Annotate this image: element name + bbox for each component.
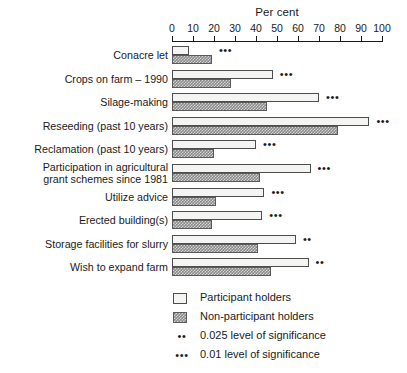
significance-marker: •••: [271, 187, 284, 198]
significance-marker: •••: [326, 92, 339, 103]
bar-participant-holders: [172, 140, 256, 149]
significance-marker: •••: [263, 139, 276, 150]
bar-row-label: Storage facilities for slurry: [3, 239, 168, 251]
bar-row: Conacre let•••: [0, 46, 407, 70]
bar-row: Utilize advice•••: [0, 188, 407, 212]
bar-participant-holders: [172, 117, 369, 126]
bar-non-participant-holders: [172, 126, 338, 135]
bar-row: Erected building(s)•••: [0, 211, 407, 235]
bar-row-label: Crops on farm – 1990: [3, 74, 168, 86]
legend-significance-marker-icon: ••: [173, 330, 191, 342]
significance-marker: •••: [376, 116, 389, 127]
bar-non-participant-holders: [172, 102, 267, 111]
bar-row: Reseeding (past 10 years)•••: [0, 117, 407, 141]
bar-participant-holders: [172, 70, 273, 79]
legend-item-label: 0.01 level of significance: [200, 348, 320, 360]
legend-item-label: Participant holders: [200, 291, 291, 303]
bar-row-label: Wish to expand farm: [3, 262, 168, 274]
significance-marker: ••: [316, 257, 325, 268]
legend-item: Non-participant holders: [173, 309, 403, 328]
bar-row-label: Erected building(s): [3, 215, 168, 227]
legend-item: Participant holders: [173, 290, 403, 309]
bar-row-label: Utilize advice: [3, 192, 168, 204]
legend-significance-marker-icon: •••: [173, 349, 191, 361]
bar-row-label: Conacre let: [3, 50, 168, 62]
bar-participant-holders: [172, 188, 264, 197]
bar-participant-holders: [172, 93, 319, 102]
bar-row-label: Silage-making: [3, 97, 168, 109]
bar-participant-holders: [172, 46, 189, 55]
significance-marker: •••: [318, 163, 331, 174]
bar-row-label: Participation in agricultural grant sche…: [3, 162, 168, 185]
legend-item: ••0.025 level of significance: [173, 328, 403, 347]
significance-marker: •••: [269, 210, 282, 221]
chart-legend: Participant holdersNon-participant holde…: [173, 290, 403, 366]
significance-marker: •••: [219, 45, 232, 56]
legend-swatch-non-participant-icon: [173, 312, 187, 323]
bar-non-participant-holders: [172, 149, 214, 158]
significance-marker: ••: [303, 234, 312, 245]
bar-non-participant-holders: [172, 220, 212, 229]
bar-row: Silage-making•••: [0, 93, 407, 117]
bar-participant-holders: [172, 235, 296, 244]
bar-row: Participation in agricultural grant sche…: [0, 164, 407, 188]
bar-non-participant-holders: [172, 79, 231, 88]
bar-chart: Per cent 0102030405060708090100 Conacre …: [0, 0, 407, 373]
bar-participant-holders: [172, 258, 309, 267]
bar-row: Storage facilities for slurry••: [0, 235, 407, 259]
bar-non-participant-holders: [172, 197, 216, 206]
bar-participant-holders: [172, 164, 311, 173]
bar-non-participant-holders: [172, 173, 260, 182]
legend-item-label: Non-participant holders: [200, 310, 314, 322]
bar-non-participant-holders: [172, 267, 271, 276]
legend-swatch-participant-icon: [173, 293, 187, 304]
bar-row-label: Reclamation (past 10 years): [3, 144, 168, 156]
bar-row: Wish to expand farm••: [0, 258, 407, 282]
legend-item: •••0.01 level of significance: [173, 347, 403, 366]
legend-item-label: 0.025 level of significance: [200, 329, 326, 341]
significance-marker: •••: [280, 69, 293, 80]
bar-non-participant-holders: [172, 244, 258, 253]
bar-row-label: Reseeding (past 10 years): [3, 121, 168, 133]
bar-non-participant-holders: [172, 55, 212, 64]
bar-participant-holders: [172, 211, 262, 220]
bar-row: Crops on farm – 1990•••: [0, 70, 407, 94]
